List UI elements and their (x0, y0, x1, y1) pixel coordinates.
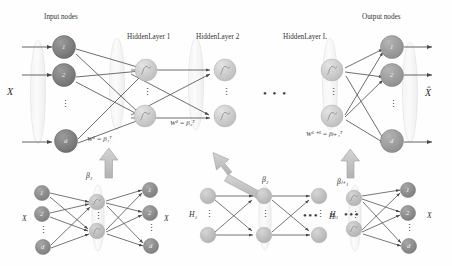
hidden-layer-1-vdots: ⋮ (143, 88, 152, 97)
aeL1-in-vdots: ⋮ (351, 211, 360, 220)
output-layer-nodes (381, 36, 404, 153)
input-node-d-label: d (64, 138, 67, 145)
main-input-label: X (7, 87, 13, 97)
edges-hiddenL-output (345, 49, 384, 143)
aeL1-out-node-d-label: d (407, 243, 410, 250)
autoencoder-L1-output-label: X (427, 212, 432, 220)
ae1-out-node-d-label: d (149, 243, 152, 250)
ae1-hidden-vdots: ⋮ (94, 212, 103, 221)
ae1-in-vdots: ⋮ (39, 226, 48, 235)
weight-2-label: W² = β₂ᵀ (170, 120, 195, 127)
ae2-in-vdots: ⋮ (205, 210, 214, 219)
aeL1-out-node-1-label: 1 (406, 187, 409, 194)
weight-1-label: W¹ = β₁ᵀ (87, 136, 112, 143)
ae1-out-node-2-label: 2 (148, 210, 151, 217)
autoencoder-L1-beta-label: βₗ₊₁ (337, 178, 348, 186)
output-layer-vdots: ⋮ (389, 100, 398, 109)
header-hidden-layer-2: HiddenLayer 2 (196, 34, 239, 41)
input-layer-vdots: ⋮ (61, 100, 70, 109)
header-hidden-layer-L: HiddenLayer L (283, 34, 327, 41)
autoencoder-L1-input-label: Hₗ (329, 213, 335, 221)
header-input-nodes: Input nodes (44, 14, 78, 21)
hidden-layer-L-vdots: ⋮ (329, 88, 338, 97)
output-node-2-label: 2 (390, 72, 393, 79)
output-node-d-label: d (390, 138, 393, 145)
main-output-label: X̂ (425, 88, 431, 98)
aeL1-out-vdots: ⋮ (405, 224, 414, 233)
autoencoder-2-beta-label: β₂ (262, 176, 268, 184)
hidden-layer-nodes (134, 59, 343, 127)
header-hidden-layer-1: HiddenLayer 1 (127, 34, 170, 41)
autoencoder-1-beta-label: β₁ (86, 172, 92, 180)
block-arrow-L1 (341, 149, 360, 178)
output-node-1-label: 1 (390, 44, 393, 51)
input-layer-nodes (53, 36, 78, 153)
header-output-nodes: Output nodes (362, 14, 401, 21)
hidden-layer-2-vdots: ⋮ (222, 88, 231, 97)
autoencoder-2-input-label: H₁ (189, 211, 197, 219)
autoencoder-1-input-label: X (22, 215, 27, 223)
autoencoder-1-output-label: X (164, 215, 169, 223)
main-layers-ellipsis: • • • (263, 88, 288, 99)
aeL1-leading-ellipsis: ••• (303, 210, 319, 221)
input-node-1-label: 1 (62, 44, 65, 51)
weight-L1-label: Wᴸ⁺¹ = βₗ₊₁ᵀ (306, 131, 343, 138)
ae1-in-node-2-label: 2 (40, 211, 43, 218)
input-node-2-label: 2 (62, 72, 65, 79)
ae1-out-node-1-label: 1 (148, 187, 151, 194)
deep-network-diagram: Input nodes HiddenLayer 1 HiddenLayer 2 … (0, 0, 452, 266)
aeL1-out-node-2-label: 2 (406, 210, 409, 217)
ae1-in-node-d-label: d (41, 244, 44, 251)
ae1-in-node-1-label: 1 (40, 190, 43, 197)
block-arrow-1 (100, 148, 119, 178)
ae1-out-vdots: ⋮ (147, 224, 156, 233)
ae2-hidden-vdots: ⋮ (261, 210, 270, 219)
